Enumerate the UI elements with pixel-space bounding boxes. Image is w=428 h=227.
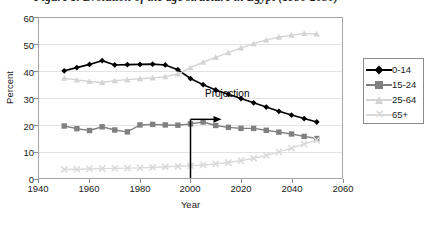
plot-area [38, 17, 343, 179]
diamond-marker-icon [375, 65, 384, 74]
figure-title: Figure 1. Evolution of the age structure… [34, 0, 374, 5]
legend-item-65plus[interactable]: ✕ 65+ [364, 107, 423, 122]
legend-label: 0-14 [392, 65, 411, 75]
x-tick-label: 1980 [120, 183, 160, 194]
legend-label: 15-24 [392, 80, 416, 90]
triangle-marker-icon [375, 96, 383, 104]
y-axis-title: Percent [4, 58, 15, 118]
x-tick-label: 2000 [170, 183, 210, 194]
x-marker-icon: ✕ [375, 110, 385, 118]
y-tick-label: 60 [8, 14, 34, 23]
legend-swatch-15-24 [366, 79, 392, 91]
x-tick-label: 1940 [18, 183, 58, 194]
legend-swatch-65plus: ✕ [366, 109, 392, 121]
legend-swatch-25-64 [366, 94, 392, 106]
chart-screenshot: Figure 1. Evolution of the age structure… [0, 0, 428, 227]
x-tick-label: 2020 [221, 183, 261, 194]
legend-item-25-64[interactable]: 25-64 [364, 92, 423, 107]
square-marker-icon [375, 81, 383, 89]
y-tick-label: 10 [8, 148, 34, 157]
legend-label: 25-64 [392, 95, 416, 105]
y-tick-label: 50 [8, 41, 34, 50]
x-axis-title: Year [38, 199, 343, 210]
legend-item-15-24[interactable]: 15-24 [364, 77, 423, 92]
legend: 0-14 15-24 25-64 ✕ 65+ [363, 58, 424, 124]
legend-label: 65+ [392, 110, 408, 120]
x-tick-label: 2040 [272, 183, 312, 194]
plot-inner [39, 18, 342, 178]
projection-label: Projection [205, 88, 249, 99]
x-tick-label: 2060 [323, 183, 363, 194]
legend-item-0-14[interactable]: 0-14 [364, 62, 423, 77]
legend-swatch-0-14 [366, 64, 392, 76]
x-tick-label: 1960 [69, 183, 109, 194]
series-canvas [39, 18, 342, 178]
y-tick-label: 20 [8, 122, 34, 131]
